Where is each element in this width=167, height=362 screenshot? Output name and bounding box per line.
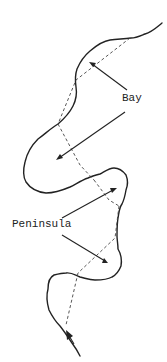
bay-label: Bay xyxy=(122,93,142,104)
bottom-chord xyxy=(66,273,78,325)
peninsula-lower-chord xyxy=(78,206,119,273)
bay-lower-chord xyxy=(58,124,94,180)
bay-arrow-lower xyxy=(59,112,125,158)
coastline-path xyxy=(24,23,162,356)
bay-upper-chord xyxy=(58,38,130,124)
peninsula-arrow-upper-head xyxy=(110,188,117,193)
bay-arrow-upper xyxy=(92,64,127,90)
coastline-diagram xyxy=(0,0,167,362)
peninsula-arrow-lower-head xyxy=(102,258,108,263)
peninsula-arrow-upper xyxy=(62,190,113,218)
bay-arrow-lower-head xyxy=(56,154,63,160)
peninsula-label: Peninsula xyxy=(12,219,71,230)
peninsula-arrow-lower xyxy=(62,235,105,261)
